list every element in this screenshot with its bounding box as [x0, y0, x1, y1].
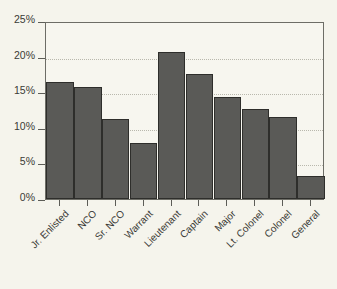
y-axis-tick-label: 10% — [14, 121, 35, 132]
bar — [158, 52, 185, 199]
y-axis-tick-mark — [38, 164, 45, 165]
x-axis-tick-mark — [87, 200, 88, 206]
x-axis-tick-label: General — [289, 208, 322, 241]
y-axis-tick-mark — [38, 129, 45, 130]
x-axis-tick-mark — [171, 200, 172, 206]
bar — [269, 117, 296, 199]
x-axis-tick-mark — [198, 200, 199, 206]
y-axis-tick-label: 20% — [14, 50, 35, 61]
x-axis-tick-label: Major — [213, 208, 238, 233]
bar — [102, 119, 129, 199]
x-axis-tick-mark — [226, 200, 227, 206]
bar — [242, 109, 269, 199]
y-axis-tick-label: 15% — [14, 85, 35, 96]
y-axis-tick-mark — [38, 22, 45, 23]
bar — [186, 74, 213, 199]
y-axis-tick-label: 25% — [14, 14, 35, 25]
x-axis-tick-mark — [143, 200, 144, 206]
bars-group — [46, 23, 323, 199]
x-axis-tick-label: Colonel — [262, 208, 294, 240]
y-axis-tick-mark — [38, 93, 45, 94]
y-axis-tick-mark — [38, 58, 45, 59]
bar — [46, 82, 73, 199]
x-axis-tick-mark — [254, 200, 255, 206]
plot-area — [45, 22, 324, 200]
x-axis-tick-label: Captain — [178, 208, 210, 240]
y-axis-tick-mark — [38, 200, 45, 201]
y-axis-tick-label: 0% — [20, 192, 35, 203]
bar — [214, 97, 241, 199]
x-axis-tick-mark — [59, 200, 60, 206]
bar — [74, 87, 101, 200]
y-axis-tick-label: 5% — [20, 156, 35, 167]
x-axis: Jr. EnlistedNCOSr. NCOWarrantLieutenantC… — [45, 200, 324, 289]
bar-chart: 0%5%10%15%20%25% Jr. EnlistedNCOSr. NCOW… — [0, 0, 337, 289]
x-axis-tick-label: Sr. NCO — [92, 208, 126, 242]
x-axis-tick-mark — [282, 200, 283, 206]
x-axis-tick-mark — [310, 200, 311, 206]
x-axis-tick-label: NCO — [75, 208, 99, 232]
bar — [297, 176, 324, 200]
bar — [130, 143, 157, 199]
x-axis-tick-mark — [115, 200, 116, 206]
